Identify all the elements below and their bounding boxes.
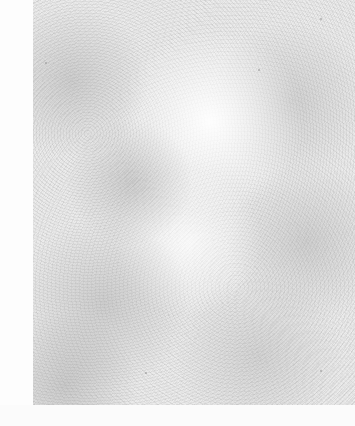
texture-speck bbox=[320, 370, 322, 372]
texture-speck bbox=[320, 18, 322, 20]
left-margin bbox=[0, 0, 33, 426]
bottom-margin bbox=[0, 405, 355, 426]
texture-speck bbox=[258, 69, 260, 71]
texture-speck bbox=[45, 62, 47, 64]
texture-canvas bbox=[0, 0, 355, 426]
texture-speck bbox=[145, 372, 147, 374]
noise-texture-panel bbox=[33, 0, 355, 405]
